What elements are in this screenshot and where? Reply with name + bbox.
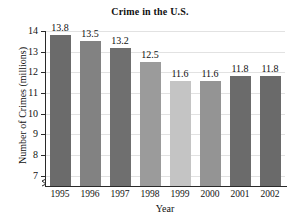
x-axis-tick-label: 1995 bbox=[44, 189, 76, 200]
x-axis-tick-label: 1996 bbox=[74, 189, 106, 200]
axis-break-icon bbox=[41, 177, 50, 187]
chart-screenshot: Crime in the U.S. Number of Crimes (mill… bbox=[0, 0, 300, 223]
bar bbox=[260, 76, 281, 186]
bar-value-label: 13.2 bbox=[105, 36, 135, 46]
x-axis-tick-label: 1997 bbox=[104, 189, 136, 200]
y-axis-tick-label: 9 bbox=[18, 129, 38, 139]
bar bbox=[80, 41, 101, 186]
x-axis-tick-label: 1999 bbox=[164, 189, 196, 200]
x-axis-line bbox=[45, 186, 287, 187]
bar bbox=[140, 62, 161, 186]
chart-title: Crime in the U.S. bbox=[0, 6, 300, 17]
bar-value-label: 11.8 bbox=[255, 64, 285, 74]
bar bbox=[110, 48, 131, 186]
bar-value-label: 11.6 bbox=[165, 69, 195, 79]
bar-value-label: 11.6 bbox=[195, 69, 225, 79]
bar-value-label: 11.8 bbox=[225, 64, 255, 74]
bar bbox=[50, 35, 71, 186]
x-axis-tick-label: 2002 bbox=[254, 189, 286, 200]
y-axis-tick-label: 13 bbox=[18, 47, 38, 57]
y-axis-tick-label: 7 bbox=[18, 171, 38, 181]
x-axis-tick-label: 2001 bbox=[224, 189, 256, 200]
y-axis-tick-label: 12 bbox=[18, 67, 38, 77]
x-axis-tick-label: 1998 bbox=[134, 189, 166, 200]
plot-area bbox=[45, 31, 285, 186]
bar-value-label: 12.5 bbox=[135, 50, 165, 60]
x-axis-title: Year bbox=[45, 203, 285, 214]
y-axis-tick-label: 11 bbox=[18, 88, 38, 98]
y-axis-tick-label: 8 bbox=[18, 150, 38, 160]
x-axis-tick-label: 2000 bbox=[194, 189, 226, 200]
bar-value-label: 13.8 bbox=[45, 23, 75, 33]
y-axis-line bbox=[45, 31, 46, 186]
bar bbox=[200, 81, 221, 186]
y-axis-tick-label: 10 bbox=[18, 109, 38, 119]
bar-value-label: 13.5 bbox=[75, 29, 105, 39]
bar bbox=[170, 81, 191, 186]
bar bbox=[230, 76, 251, 186]
y-axis-tick-label: 14 bbox=[18, 26, 38, 36]
